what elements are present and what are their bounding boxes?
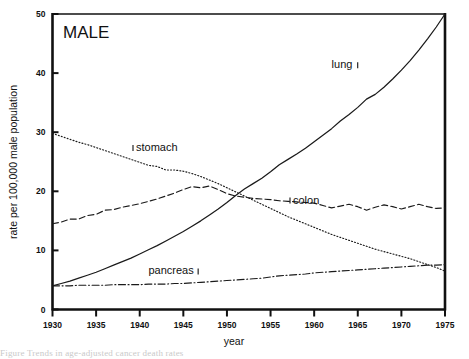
series-label-text: colon bbox=[293, 194, 319, 206]
x-tick-label: 1930 bbox=[43, 320, 62, 330]
x-tick-label: 1950 bbox=[217, 320, 236, 330]
y-tick-label: 40 bbox=[36, 68, 46, 78]
x-tick-label: 1960 bbox=[305, 320, 324, 330]
figure-background bbox=[0, 0, 469, 359]
cropped-caption: Figure Trends in age-adjusted cancer dea… bbox=[0, 347, 469, 359]
y-tick-label: 30 bbox=[36, 127, 46, 137]
page-title: MALE bbox=[63, 23, 109, 42]
y-tick-label: 0 bbox=[41, 305, 46, 315]
y-tick-label: 50 bbox=[36, 9, 46, 19]
x-tick-label: 1975 bbox=[436, 320, 455, 330]
x-tick-label: 1970 bbox=[392, 320, 411, 330]
x-tick-label: 1935 bbox=[87, 320, 106, 330]
y-axis-title: rate per 100,000 male population bbox=[7, 85, 19, 239]
x-tick-label: 1965 bbox=[348, 320, 367, 330]
cancer-mortality-figure: 01020304050 1930193519401945195019551960… bbox=[0, 0, 469, 359]
series-label-pancreas: pancreas bbox=[148, 264, 198, 276]
series-label-colon: colon bbox=[290, 194, 319, 206]
y-tick-label: 10 bbox=[36, 245, 46, 255]
series-label-text: pancreas bbox=[148, 264, 194, 276]
x-axis-title: year bbox=[224, 335, 245, 347]
line-chart: 01020304050 1930193519401945195019551960… bbox=[0, 0, 469, 359]
x-tick-label: 1945 bbox=[174, 320, 193, 330]
series-label-text: stomach bbox=[136, 141, 178, 153]
y-tick-label: 20 bbox=[36, 186, 46, 196]
series-label-text: lung bbox=[332, 58, 353, 70]
x-tick-label: 1940 bbox=[130, 320, 149, 330]
x-tick-label: 1955 bbox=[261, 320, 280, 330]
series-label-stomach: stomach bbox=[133, 141, 178, 153]
